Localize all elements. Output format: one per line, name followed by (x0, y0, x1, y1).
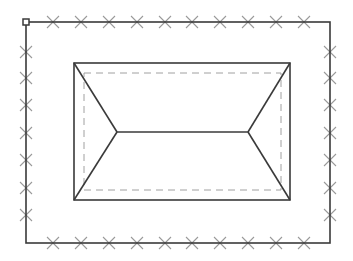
corner-handle-icon[interactable] (23, 19, 29, 25)
roof-hip-lines (74, 63, 290, 200)
hip-roof-site-plan (0, 0, 353, 261)
